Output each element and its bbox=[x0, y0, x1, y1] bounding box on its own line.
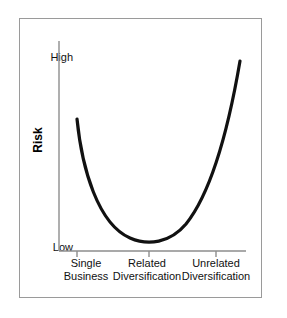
risk-curve-line bbox=[77, 61, 240, 242]
plot-area: Risk High Low Single Business Related Di… bbox=[20, 19, 261, 297]
figure-frame: Risk High Low Single Business Related Di… bbox=[19, 18, 262, 298]
chart-canvas bbox=[20, 19, 263, 299]
